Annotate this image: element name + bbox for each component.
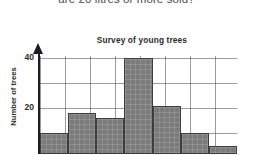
question-text: are 20 litres or more sold? [0,0,253,5]
y-tick-label-40: 40 [14,52,34,62]
bar [68,113,96,154]
bar [40,133,68,154]
bar [153,106,181,155]
y-tick-label-20: 20 [14,102,34,112]
bar [181,133,209,154]
bar [124,58,152,154]
bar [96,118,124,154]
y-axis-arrow-icon [33,43,43,54]
bar [209,146,237,155]
y-axis-ticks: 40 20 [14,0,34,154]
plot-area [40,56,237,154]
chart-title: Survey of young trees [44,35,240,45]
